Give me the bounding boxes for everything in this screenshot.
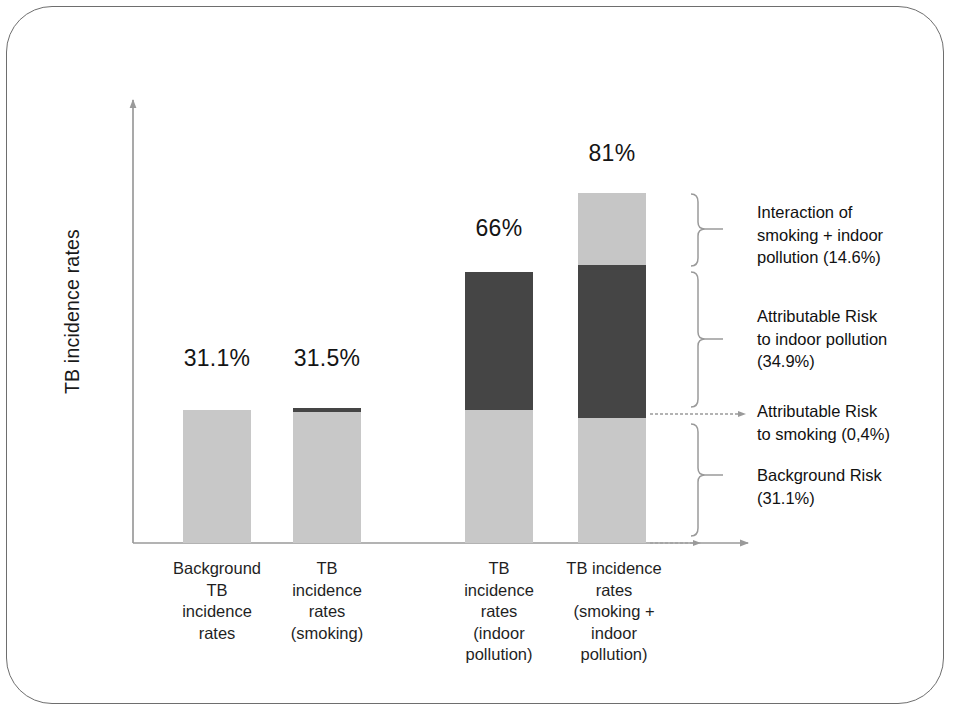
bar-indoor-pollution: [465, 272, 533, 543]
category-line: pollution): [540, 644, 688, 666]
annotation-smoking: Attributable Risk to smoking (0,4%): [757, 400, 953, 445]
annotation-line: smoking + indoor: [757, 224, 953, 247]
bar-value-1: 31.1%: [157, 345, 277, 372]
category-line: indoor: [540, 623, 688, 645]
y-axis-title: TB incidence rates: [61, 182, 84, 442]
bar-smoking: [293, 408, 361, 543]
category-line: TB incidence: [540, 558, 688, 580]
category-line: rates: [540, 580, 688, 602]
bar-value-2: 31.5%: [267, 345, 387, 372]
category-label-smoking-and-indoor-pollution: TB incidence rates (smoking + indoor pol…: [540, 558, 688, 666]
category-line: (smoking): [257, 623, 397, 645]
annotation-line: Attributable Risk: [757, 305, 953, 328]
annotation-line: Background Risk: [757, 464, 953, 487]
annotation-line: (31.1%): [757, 487, 953, 510]
bar-segment-background-risk: [465, 410, 533, 543]
bar-chart: TB incidence rates 31.1% 31.5% 66% 81% B…: [0, 0, 958, 716]
category-line: incidence: [257, 580, 397, 602]
bar-segment-indoor-pollution-risk: [465, 272, 533, 410]
category-line: TB: [257, 558, 397, 580]
annotation-line: pollution (14.6%): [757, 246, 953, 269]
annotation-line: to smoking (0,4%): [757, 423, 953, 446]
bar-background: [183, 410, 251, 543]
annotation-line: Attributable Risk: [757, 400, 953, 423]
annotation-indoor-pollution: Attributable Risk to indoor pollution (3…: [757, 305, 953, 373]
bar-smoking-and-indoor-pollution: [578, 193, 646, 543]
brace-interaction: [691, 194, 723, 266]
annotation-line: (34.9%): [757, 350, 953, 373]
bar-segment-background-risk: [293, 412, 361, 543]
bar-segment-background-risk: [578, 418, 646, 543]
annotation-interaction: Interaction of smoking + indoor pollutio…: [757, 201, 953, 269]
category-label-smoking: TB incidence rates (smoking): [257, 558, 397, 644]
category-line: (smoking +: [540, 601, 688, 623]
bar-value-4: 81%: [552, 140, 672, 167]
annotation-line: to indoor pollution: [757, 328, 953, 351]
bar-segment-indoor-pollution-risk: [578, 265, 646, 414]
bar-value-3: 66%: [439, 215, 559, 242]
bar-segment-background-risk: [183, 410, 251, 543]
annotation-line: Interaction of: [757, 201, 953, 224]
brace-indoor-pollution: [691, 272, 723, 407]
category-line: rates: [257, 601, 397, 623]
bar-segment-interaction-risk: [578, 193, 646, 265]
brace-background-risk: [650, 424, 723, 543]
annotation-background-risk: Background Risk (31.1%): [757, 464, 953, 509]
